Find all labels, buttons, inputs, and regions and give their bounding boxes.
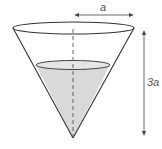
height-arrowhead-bottom <box>142 131 146 136</box>
cone-diagram <box>0 0 162 149</box>
height-label: 3a <box>147 76 159 88</box>
radius-label: a <box>100 1 106 13</box>
height-arrowhead-top <box>142 30 146 35</box>
cone-rim <box>13 22 134 34</box>
radius-arrowhead-left <box>74 13 79 17</box>
radius-arrowhead-right <box>129 13 134 17</box>
